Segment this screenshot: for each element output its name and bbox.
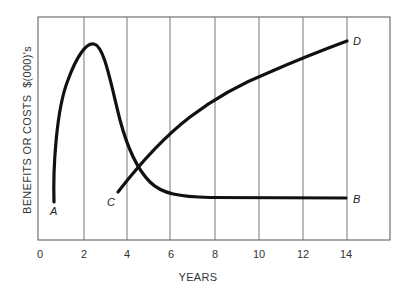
label-d: D [353, 35, 361, 47]
x-tick-8: 8 [212, 248, 218, 260]
x-tick-6: 6 [168, 248, 174, 260]
x-tick-labels: 0 2 4 6 8 10 12 14 [37, 248, 352, 260]
x-tick-10: 10 [253, 248, 265, 260]
curve-c-d [118, 41, 347, 192]
label-c: C [107, 196, 115, 208]
chart: A B C D 0 2 4 6 8 10 12 14 YEARS BENEFIT… [0, 0, 412, 294]
x-tick-2: 2 [81, 248, 87, 260]
label-a: A [49, 205, 57, 217]
x-tick-12: 12 [297, 248, 309, 260]
curve-a-b [54, 44, 346, 202]
y-axis-title: BENEFITS OR COSTS $(000)'s [21, 46, 33, 214]
label-b: B [353, 193, 360, 205]
x-tick-0: 0 [37, 248, 43, 260]
x-axis-title: YEARS [179, 271, 218, 283]
plot-frame [38, 17, 390, 240]
x-tick-4: 4 [124, 248, 130, 260]
x-tick-14: 14 [340, 248, 352, 260]
